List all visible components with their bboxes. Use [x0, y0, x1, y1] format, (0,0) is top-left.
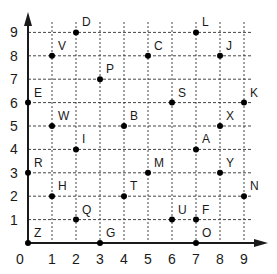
point-label: M — [154, 156, 164, 170]
point-marker-icon — [49, 193, 55, 199]
point-label: I — [82, 132, 85, 146]
y-tick-label: 2 — [10, 188, 18, 204]
point-label: F — [202, 203, 209, 217]
y-tick-label: 5 — [10, 118, 18, 134]
point-label: K — [250, 86, 258, 100]
point-marker-icon — [49, 123, 55, 129]
x-tick-label: 3 — [96, 251, 104, 267]
point-marker-icon — [145, 53, 151, 59]
point-marker-icon — [97, 240, 103, 246]
point-label: Q — [82, 203, 91, 217]
x-tick-label: 5 — [144, 251, 152, 267]
point-label: H — [58, 179, 67, 193]
y-tick-label: 7 — [10, 71, 18, 87]
y-tick-label: 9 — [10, 24, 18, 40]
y-tick-label: 6 — [10, 95, 18, 111]
point-marker-icon — [73, 29, 79, 35]
point-marker-icon — [73, 146, 79, 152]
point-marker-icon — [97, 76, 103, 82]
x-tick-label: 4 — [120, 251, 128, 267]
y-axis-arrow-icon — [24, 12, 32, 26]
x-tick-label: 1 — [48, 251, 56, 267]
point-marker-icon — [193, 29, 199, 35]
point-marker-icon — [121, 123, 127, 129]
point-marker-icon — [25, 100, 31, 106]
point-marker-icon — [169, 100, 175, 106]
point-marker-icon — [169, 217, 175, 223]
point-label: W — [58, 109, 70, 123]
point-label: P — [106, 62, 114, 76]
y-tick-label: 4 — [10, 141, 18, 157]
point-label: D — [82, 15, 91, 29]
point-label: Z — [34, 226, 41, 240]
y-tick-label: 8 — [10, 48, 18, 64]
point-label: U — [178, 203, 187, 217]
point-label: O — [202, 226, 211, 240]
point-marker-icon — [49, 53, 55, 59]
point-marker-icon — [25, 170, 31, 176]
y-tick-label: 1 — [10, 212, 18, 228]
point-f: F — [193, 203, 209, 223]
point-label: T — [130, 179, 138, 193]
point-label: B — [130, 109, 138, 123]
point-label: V — [58, 39, 66, 53]
point-label: R — [34, 156, 43, 170]
point-label: Y — [226, 156, 234, 170]
point-marker-icon — [217, 53, 223, 59]
x-tick-label: 8 — [216, 251, 224, 267]
point-marker-icon — [193, 146, 199, 152]
point-label: C — [154, 39, 163, 53]
point-label: N — [250, 179, 259, 193]
point-marker-icon — [217, 123, 223, 129]
point-label: X — [226, 109, 234, 123]
point-label: E — [34, 86, 42, 100]
point-marker-icon — [73, 217, 79, 223]
x-tick-label: 9 — [240, 251, 248, 267]
point-marker-icon — [217, 170, 223, 176]
points: DLVCJPESKWBXIARMYHTNQUFZGO — [25, 15, 259, 246]
point-marker-icon — [193, 240, 199, 246]
x-tick-label: 0 — [16, 251, 24, 267]
coordinate-grid: 0123456789123456789 DLVCJPESKWBXIARMYHTN… — [0, 0, 277, 274]
point-marker-icon — [25, 240, 31, 246]
x-tick-label: 6 — [168, 251, 176, 267]
point-label: G — [106, 226, 115, 240]
point-marker-icon — [193, 217, 199, 223]
point-label: A — [202, 132, 210, 146]
x-tick-label: 7 — [192, 251, 200, 267]
x-axis-arrow-icon — [254, 239, 268, 247]
point-marker-icon — [145, 170, 151, 176]
point-label: L — [202, 15, 209, 29]
y-tick-label: 3 — [10, 165, 18, 181]
point-marker-icon — [121, 193, 127, 199]
x-tick-label: 2 — [72, 251, 80, 267]
point-marker-icon — [241, 193, 247, 199]
tick-labels: 0123456789123456789 — [10, 24, 248, 267]
point-marker-icon — [241, 100, 247, 106]
point-label: S — [178, 86, 186, 100]
point-label: J — [226, 39, 232, 53]
